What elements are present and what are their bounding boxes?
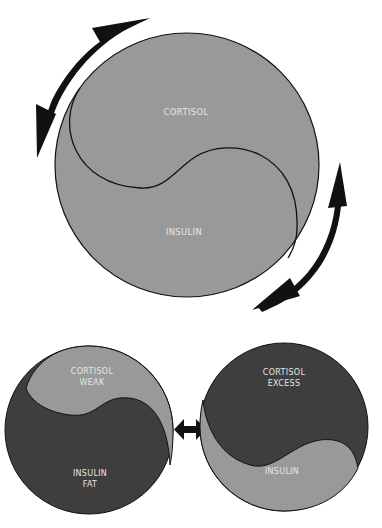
left-weak-label: WEAK: [80, 378, 105, 387]
cortisol-insulin-diagram: CORTISOL INSULIN CORTISOL WEAK INSULIN F…: [0, 0, 382, 528]
right-yin-yang: CORTISOL EXCESS INSULIN: [200, 343, 368, 511]
left-cortisol-label: CORTISOL: [71, 367, 114, 376]
main-insulin-label: INSULIN: [166, 227, 202, 237]
left-insulin-label: INSULIN: [73, 469, 107, 478]
right-insulin-label: INSULIN: [265, 467, 299, 476]
main-cortisol-label: CORTISOL: [164, 107, 209, 117]
left-fat-label: FAT: [83, 480, 98, 489]
main-circle: [55, 33, 319, 297]
right-cortisol-label: CORTISOL: [263, 368, 306, 377]
left-yin-yang: CORTISOL WEAK INSULIN FAT: [5, 346, 173, 514]
main-yin-yang: CORTISOL INSULIN: [55, 33, 319, 297]
right-excess-label: EXCESS: [268, 379, 301, 388]
